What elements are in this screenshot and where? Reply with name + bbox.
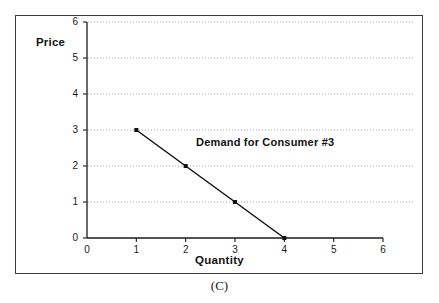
y-tick-label: 1 [56, 196, 78, 207]
y-tick-label: 2 [56, 160, 78, 171]
figure-caption: (C) [0, 278, 439, 294]
y-tick-label: 4 [56, 88, 78, 99]
y-tick-label: 3 [56, 124, 78, 135]
y-tick-label: 5 [56, 52, 78, 63]
demand-curve-figure: 0123456 0123456 Price Quantity Demand fo… [0, 0, 439, 303]
y-tick-label: 0 [56, 232, 78, 243]
x-axis-title: Quantity [0, 254, 439, 266]
y-axis-title: Price [36, 36, 65, 48]
demand-curve-annotation: Demand for Consumer #3 [196, 136, 334, 148]
y-tick-label: 6 [56, 16, 78, 27]
